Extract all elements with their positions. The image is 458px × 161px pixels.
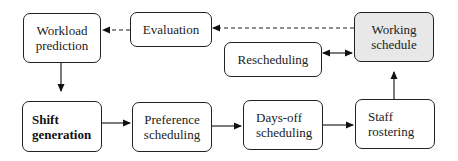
node-label-line2: scheduling [256, 125, 312, 140]
node-label-line1: Workload [36, 23, 89, 38]
node-label-line1: Preference [144, 112, 200, 127]
node-label: Evaluation [143, 22, 199, 37]
node-label-line2: prediction [36, 38, 89, 53]
node-label-line2: rostering [368, 124, 414, 139]
node-label: Rescheduling [238, 52, 309, 67]
node-staff-rostering: Staff rostering [355, 99, 435, 149]
node-label-line2: schedule [371, 37, 416, 52]
node-days-off-scheduling: Days-off scheduling [243, 100, 323, 150]
node-working-schedule: Working schedule [354, 12, 434, 62]
node-evaluation: Evaluation [130, 12, 212, 47]
node-shift-generation: Shift generation [22, 101, 102, 152]
node-label-line2: scheduling [144, 127, 200, 142]
node-rescheduling: Rescheduling [224, 42, 322, 77]
node-preference-scheduling: Preference scheduling [132, 102, 212, 152]
node-label-line1: Working [371, 22, 416, 37]
node-label-line2: generation [32, 127, 91, 142]
node-label-line1: Shift [32, 112, 91, 127]
node-workload-prediction: Workload prediction [23, 13, 101, 63]
node-label-line1: Staff [368, 109, 414, 124]
workflow-diagram: Workload prediction Evaluation Working s… [0, 0, 458, 161]
node-label-line1: Days-off [256, 110, 312, 125]
